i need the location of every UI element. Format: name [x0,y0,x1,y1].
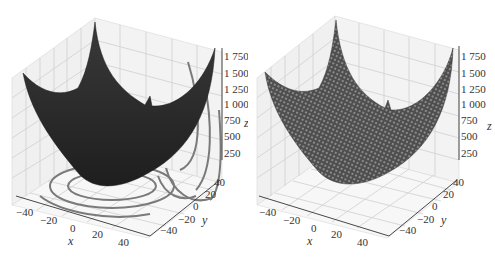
y-tick: 40 [453,176,465,188]
z-tick: 1 250 [461,83,486,95]
y-tick: 40 [214,176,226,188]
y-tick: −40 [160,224,178,236]
x-tick: −20 [40,214,58,226]
y-tick: 20 [443,188,455,200]
y-tick: 0 [193,200,199,212]
y-tick: 0 [432,200,438,212]
z-tick: 250 [224,147,241,159]
z-tick: 1 500 [224,67,248,79]
y-tick: −20 [178,213,196,225]
x-tick: 40 [118,236,130,248]
y-axis-label: y [440,213,447,227]
y-tick: 20 [205,188,217,200]
y-axis-label: y [201,213,208,227]
x-tick: 0 [311,222,317,234]
x-axis-label: x [306,234,313,248]
z-tick: 1 750 [461,50,486,62]
x-axis-label: x [67,234,74,248]
x-tick: 20 [331,228,343,240]
plot-canvas-right: 1 750 1 500 1 250 1 000 750 500 250 z −4… [247,0,495,261]
z-tick: 1 250 [224,83,248,95]
x-tick: −20 [283,214,301,226]
z-tick: 250 [461,147,478,159]
z-axis-label: z [486,119,492,133]
x-tick: −40 [259,206,277,218]
z-tick: 750 [224,114,241,126]
z-tick: 500 [224,130,241,142]
z-tick: 750 [461,114,478,126]
x-tick: −40 [16,206,34,218]
plot-canvas-left: 1 750 1 500 1 250 1 000 750 500 250 z −4… [0,0,248,261]
surface-plot-wireframe: 1 750 1 500 1 250 1 000 750 500 250 z −4… [247,0,495,261]
z-tick: 500 [461,130,478,142]
z-tick: 1 750 [224,50,248,62]
z-tick: 1 500 [461,67,486,79]
x-tick: 0 [70,222,76,234]
x-tick: 40 [357,236,369,248]
z-tick: 1 000 [461,98,486,110]
z-axis: 1 750 1 500 1 250 1 000 750 500 250 z [461,50,492,159]
y-tick: −40 [399,224,417,236]
z-axis: 1 750 1 500 1 250 1 000 750 500 250 z [224,50,248,159]
y-tick: −20 [417,213,435,225]
surface-plot-solid: 1 750 1 500 1 250 1 000 750 500 250 z −4… [0,0,248,261]
x-tick: 20 [92,228,104,240]
z-tick: 1 000 [224,98,248,110]
